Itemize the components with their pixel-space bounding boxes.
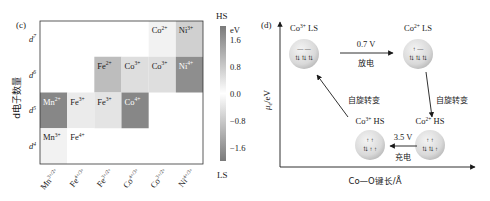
- x-tick-label: Fe4+/3+: [67, 167, 88, 189]
- eg-electrons: ↑ ↑: [366, 137, 374, 143]
- y-axis-label: μe/eV: [262, 89, 273, 111]
- t2g-electrons: ⇅ ⇅ ⇅: [295, 55, 313, 61]
- colorbar-bottom-label: LS: [217, 170, 228, 180]
- state-co2-ls: ↑ —⇅ ⇅ ⇅Co2+ LS: [403, 23, 433, 70]
- x-tick-label: Mn3+/2+: [38, 167, 61, 192]
- arrow-spin-transition-left: [317, 75, 348, 117]
- state-co3-ls: — —⇅ ⇅ ⇅Co3+ LS: [289, 23, 319, 70]
- colorbar-tick-label: −1.6: [230, 143, 245, 153]
- orbital-sphere: [289, 39, 319, 69]
- heatmap-ylabel: d电子数量: [11, 77, 22, 119]
- colorbar-unit: eV: [230, 25, 241, 35]
- state-label: Co3+ LS: [290, 23, 318, 34]
- state-co2-hs: ↑ ↑⇅ ⇅ ↑Co2+ HS: [415, 116, 445, 161]
- state-label: Co3+ HS: [356, 116, 385, 127]
- colorbar-tick-label: 0.8: [230, 62, 241, 72]
- heatmap-panel: (c) Co2+Ni3+Fe2+Co3+Co3+Ni4+Mn2+Fe3+Fe3+…: [11, 11, 245, 192]
- arrow-spin-transition-right: [426, 72, 432, 117]
- x-tick-label: Fe3+/2+: [95, 167, 116, 189]
- svg-text:μe/eV: μe/eV: [262, 89, 273, 111]
- x-axis-label: Co—O键长/Å: [348, 175, 401, 186]
- spin-transition-diagram: (d) μe/eV Co—O键长/Å — —⇅ ⇅ ⇅Co3+ LS↑ —⇅ ⇅…: [261, 20, 475, 186]
- state-label: Co2+ LS: [404, 23, 432, 34]
- eg-electrons: ↑ ↑: [426, 137, 434, 143]
- y-tick-label: d7: [29, 33, 36, 44]
- orbital-sphere: [355, 130, 385, 160]
- state-co3-hs: ↑ ↑⇅ ↑ ↑Co3+ HS: [355, 116, 385, 161]
- y-tick-label: d5: [29, 105, 36, 116]
- spin-transition-left-label: 自旋转变: [348, 95, 380, 105]
- colorbar-tick-label: −0.8: [230, 116, 245, 126]
- y-tick-label: d6: [29, 69, 36, 80]
- x-tick-label: Ni4+/3+: [176, 167, 197, 189]
- y-tick-label: d4: [29, 141, 36, 152]
- x-tick-label: Co4+/3+: [121, 167, 143, 190]
- x-tick-label: Co3+/2+: [148, 167, 170, 190]
- charge-label: 充电: [395, 152, 411, 162]
- y-label-unit: /eV: [262, 89, 272, 102]
- orbital-sphere: [403, 39, 433, 69]
- colorbar-tick-label: 1.6: [230, 35, 241, 45]
- orbital-sphere: [415, 130, 445, 160]
- figure: (c) Co2+Ni3+Fe2+Co3+Co3+Ni4+Mn2+Fe3+Fe3+…: [0, 0, 490, 201]
- state-label: Co2+ HS: [416, 116, 445, 127]
- t2g-electrons: ⇅ ↑ ↑: [363, 146, 377, 152]
- discharge-voltage: 0.7 V: [357, 39, 377, 49]
- panel-label-c: (c): [16, 20, 26, 30]
- spin-transition-right-label: 自旋转变: [436, 95, 468, 105]
- eg-electrons: — —: [296, 46, 312, 52]
- panel-label-d: (d): [261, 20, 272, 30]
- eg-electrons: ↑ —: [413, 46, 425, 52]
- charge-voltage: 3.5 V: [394, 132, 414, 142]
- discharge-label: 放电: [358, 58, 374, 68]
- t2g-electrons: ⇅ ⇅ ⇅: [409, 55, 427, 61]
- colorbar-top-label: HS: [216, 11, 228, 21]
- colorbar-tick-label: 0.0: [230, 89, 241, 99]
- colorbar: [220, 26, 226, 161]
- t2g-electrons: ⇅ ⇅ ↑: [422, 146, 438, 152]
